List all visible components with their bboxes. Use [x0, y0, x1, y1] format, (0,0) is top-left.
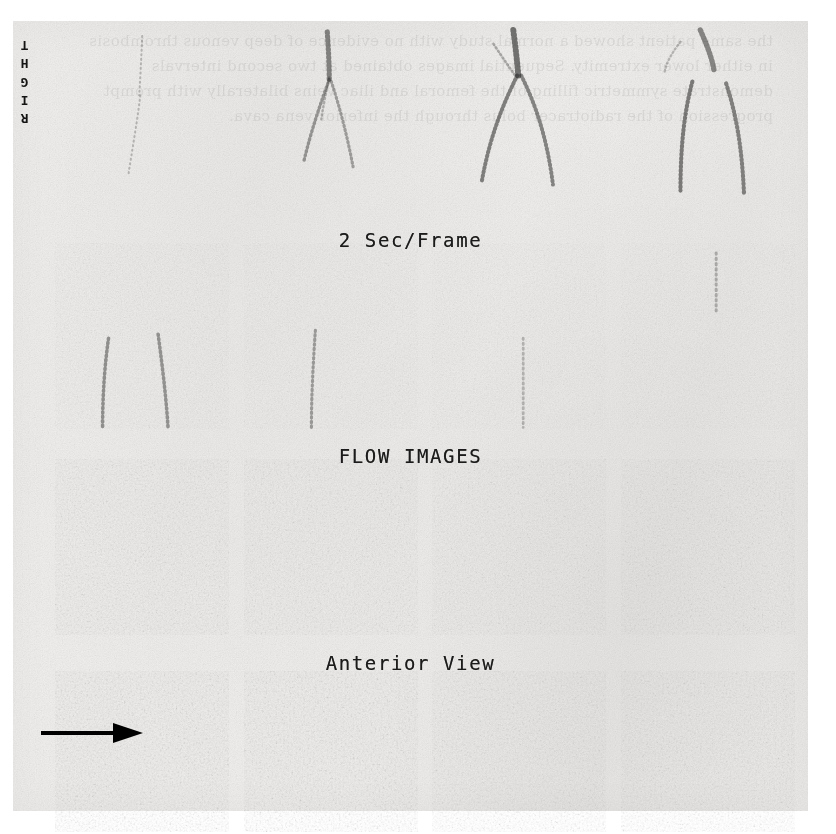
frame-row-early-phase [55, 26, 795, 220]
scan-frame [55, 671, 230, 833]
scan-frame [621, 459, 796, 637]
scan-frame [55, 26, 230, 220]
scan-frame [621, 26, 796, 220]
scan-frame [244, 459, 419, 637]
caption-series-title: FLOW IMAGES [13, 445, 808, 467]
scan-frame [244, 243, 419, 431]
scan-frame [55, 459, 230, 637]
scan-frame [55, 243, 230, 431]
scan-frame [432, 671, 607, 833]
scan-frame [432, 459, 607, 637]
scan-frame [621, 671, 796, 833]
orientation-marker-right: RIGHT [18, 35, 31, 126]
scan-frame [432, 26, 607, 220]
caption-frame-rate: 2 Sec/Frame [13, 229, 808, 251]
caption-view: Anterior View [13, 652, 808, 674]
frame-row-venous-filling [55, 243, 795, 431]
scan-frame [244, 26, 419, 220]
frame-row-equilibrium-phase [55, 459, 795, 637]
annotation-arrow-icon [39, 719, 147, 747]
frame-row-late-phase [55, 671, 795, 833]
scan-frame [244, 671, 419, 833]
scanned-page: the same patient showed a normal study w… [13, 21, 808, 811]
scan-frame [432, 243, 607, 431]
scan-frame [621, 243, 796, 431]
